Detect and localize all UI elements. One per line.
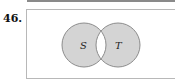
set-s-label: S: [80, 40, 87, 51]
venn-diagram: S T: [0, 0, 175, 80]
